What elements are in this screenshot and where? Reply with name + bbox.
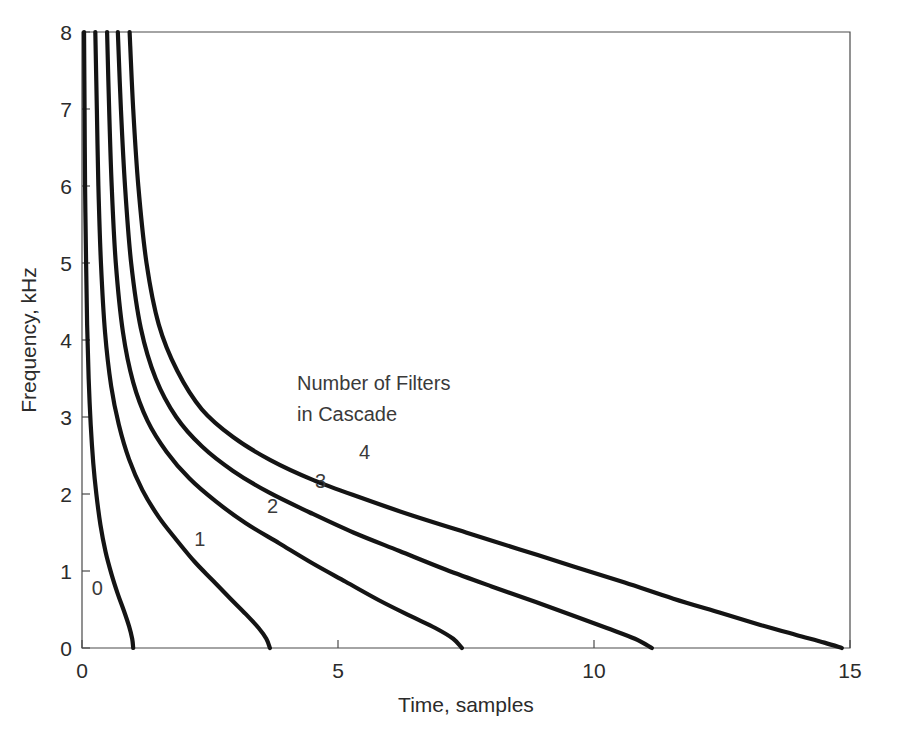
x-tick-label-10: 10: [582, 659, 605, 682]
chart-figure: 051015 012345678 01234 Number of Filters…: [0, 0, 899, 737]
chart-annotations: Number of Filtersin Cascade: [297, 372, 450, 425]
y-tick-label-6: 6: [60, 175, 72, 198]
y-tick-label-8: 8: [60, 21, 72, 44]
cascade-note-line2: in Cascade: [297, 403, 397, 425]
y-tick-label-0: 0: [60, 637, 72, 660]
y-tick-label-4: 4: [60, 329, 72, 352]
x-tick-label-5: 5: [332, 659, 344, 682]
curve-label-3: 3: [315, 470, 326, 492]
axis-frame: [82, 32, 850, 648]
data-curves: [84, 32, 842, 648]
y-tick-label-3: 3: [60, 406, 72, 429]
curve-4: [130, 32, 842, 648]
plot-axes: [82, 32, 850, 648]
curve-label-0: 0: [92, 577, 103, 599]
x-axis-title: Time, samples: [398, 693, 534, 716]
x-tick-label-0: 0: [76, 659, 88, 682]
cascade-note-line1: Number of Filters: [297, 372, 450, 394]
y-tick-label-7: 7: [60, 98, 72, 121]
y-tick-label-1: 1: [60, 560, 72, 583]
y-tick-label-2: 2: [60, 483, 72, 506]
curve-label-4: 4: [359, 441, 370, 463]
curve-label-1: 1: [194, 528, 205, 550]
x-axis-ticks: 051015: [76, 640, 862, 682]
curve-3: [118, 32, 652, 648]
curve-label-2: 2: [267, 495, 278, 517]
frequency-vs-time-chart: 051015 012345678 01234 Number of Filters…: [0, 0, 899, 737]
x-tick-label-15: 15: [838, 659, 861, 682]
y-axis-title: Frequency, kHz: [17, 267, 40, 413]
y-tick-label-5: 5: [60, 252, 72, 275]
